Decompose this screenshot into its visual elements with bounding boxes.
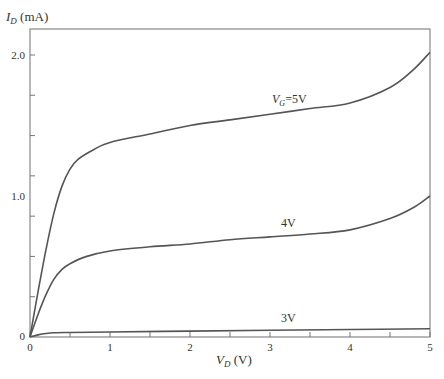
series-label-3v: 3V <box>281 311 296 325</box>
y-tick-label: 2.0 <box>11 49 25 61</box>
x-tick-label: 3 <box>267 341 273 353</box>
x-axis-label: VD (V) <box>216 352 252 369</box>
curve-4v <box>30 196 430 337</box>
y-tick-label: 1.0 <box>11 190 25 202</box>
x-tick-label: 5 <box>427 341 433 353</box>
x-tick-label: 4 <box>347 341 353 353</box>
y-tick-label: 0 <box>20 330 26 342</box>
y-axis-label: ID (mA) <box>5 9 48 26</box>
x-tick-label: 2 <box>187 341 193 353</box>
series-label-vg5: VG=5V <box>272 92 307 108</box>
curve-vg-5v <box>30 52 430 337</box>
axis-ticks: 01234501.02.0 <box>11 49 433 353</box>
plot-border <box>30 29 430 337</box>
x-tick-label: 1 <box>107 341 113 353</box>
id-vd-chart: 01234501.02.0 ID (mA) VD (V) VG=5V 4V 3V <box>0 0 444 379</box>
x-tick-label: 0 <box>27 341 33 353</box>
series-label-4v: 4V <box>281 216 296 230</box>
plot-frame <box>30 29 430 337</box>
curves <box>30 52 430 337</box>
